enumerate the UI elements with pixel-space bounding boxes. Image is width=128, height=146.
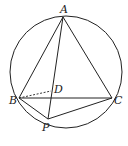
diagram-canvas: A B C P D xyxy=(0,0,128,146)
geometry-figure: A B C P D xyxy=(0,0,128,146)
circumcircle xyxy=(10,16,122,128)
label-A: A xyxy=(59,3,68,16)
segment-CP xyxy=(48,98,112,119)
segment-AC xyxy=(63,17,112,98)
label-P: P xyxy=(41,121,50,134)
dashed-segment-BD xyxy=(19,91,51,98)
label-C: C xyxy=(114,94,123,107)
label-D: D xyxy=(53,83,63,96)
label-B: B xyxy=(8,94,17,107)
segment-AP xyxy=(48,17,63,119)
